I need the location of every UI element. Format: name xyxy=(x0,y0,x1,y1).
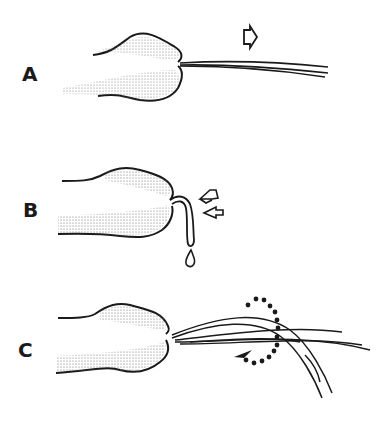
nozzle-a xyxy=(62,33,184,100)
nozzle-c xyxy=(56,304,169,373)
panel-a-drawing xyxy=(62,26,328,101)
bent-fiber-b xyxy=(170,197,194,247)
nozzle-b xyxy=(58,168,173,237)
panel-b-drawing xyxy=(58,168,223,267)
fiber-strands-a xyxy=(180,62,328,77)
droplet-icon xyxy=(186,250,195,267)
panel-label-a: A xyxy=(22,62,37,86)
panel-label-b: B xyxy=(23,198,38,222)
right-arrow-icon xyxy=(244,26,257,48)
arrow-icon-lower-left xyxy=(204,207,223,218)
panel-label-c: C xyxy=(18,338,33,362)
panel-c-drawing xyxy=(56,297,370,398)
arrow-icon-upper-left xyxy=(200,190,218,203)
diagram-canvas xyxy=(0,0,392,421)
